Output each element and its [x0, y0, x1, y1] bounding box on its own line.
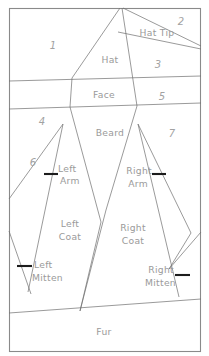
label-left-arm-line2: Arm [60, 175, 80, 186]
label-region-4: 4 [39, 116, 46, 127]
label-region-3: 3 [155, 59, 162, 70]
label-fur: Fur [96, 326, 111, 337]
label-right-mitten-line2: Mitten [145, 277, 176, 288]
left-mitten-lower-line [9, 231, 31, 294]
face-top-line [9, 76, 201, 81]
face-left-edge-line [70, 78, 72, 107]
label-region-5: 5 [159, 91, 166, 102]
hat-left-edge-line [72, 8, 120, 78]
label-right-mitten-line1: Right [148, 264, 174, 275]
label-left-coat-line2: Coat [59, 231, 82, 242]
label-left-coat-line1: Left [61, 218, 80, 229]
beard-bottom-right-line [80, 210, 106, 311]
label-region-1: 1 [50, 40, 57, 51]
hat-right-edge-line [122, 8, 137, 106]
label-right-arm-line1: Right [126, 165, 152, 176]
label-right-arm-line2: Arm [128, 178, 148, 189]
label-beard: Beard [96, 127, 125, 138]
beard-right-line [106, 106, 137, 210]
label-right-coat-line1: Right [120, 222, 146, 233]
label-left-mitten-line1: Left [34, 259, 53, 270]
label-region-6: 6 [30, 157, 37, 168]
label-region-7: 7 [169, 128, 176, 139]
label-hat-tip: Hat Tip [140, 27, 175, 38]
region-labels: Hat Hat Tip Face Beard Left Arm Right Ar… [32, 27, 176, 337]
label-left-mitten-line2: Mitten [32, 272, 63, 283]
label-region-2: 2 [178, 16, 185, 27]
label-hat: Hat [101, 54, 118, 65]
label-face: Face [93, 89, 115, 100]
label-right-coat-line2: Coat [122, 235, 145, 246]
diagram-canvas: Hat Hat Tip Face Beard Left Arm Right Ar… [0, 0, 209, 356]
label-left-arm-line1: Left [58, 163, 77, 174]
face-bottom-line [9, 103, 201, 109]
segmentation-diagram: Hat Hat Tip Face Beard Left Arm Right Ar… [0, 0, 209, 356]
fur-top-line [9, 299, 201, 313]
